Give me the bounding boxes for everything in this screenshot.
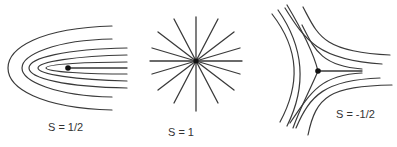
panel-one-star [150, 17, 242, 111]
singular-point [65, 65, 71, 71]
label-s-half: S = 1/2 [48, 121, 83, 133]
singular-point [194, 59, 199, 64]
label-s-one: S = 1 [168, 126, 194, 138]
panel-half-loop [8, 26, 127, 110]
label-s-neg-half: S = -1/2 [336, 108, 375, 120]
singular-point [315, 68, 321, 74]
